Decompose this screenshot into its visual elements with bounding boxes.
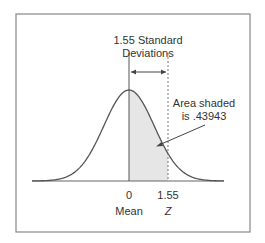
tick-label-z: 1.55 [157,189,178,201]
tick-label-mean: 0 [126,189,132,201]
title-line-2: Deviations [122,47,174,59]
sublabel-mean: Mean [115,205,143,217]
title-line-1: 1.55 Standard [113,34,182,46]
normal-distribution-figure: 1.55 Standard Deviations Area shaded is … [0,0,265,243]
sublabel-z: Z [164,205,173,217]
annotation-line-1: Area shaded [173,97,235,109]
annotation-line-2: is .43943 [182,110,227,122]
